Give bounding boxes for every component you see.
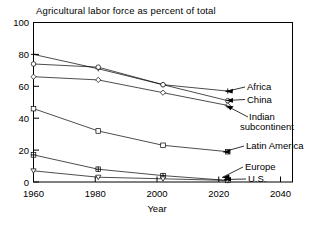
y-tick-label-4: 80	[18, 49, 29, 60]
data-point	[31, 52, 36, 57]
data-point	[96, 65, 101, 70]
y-tick-label-3: 60	[18, 81, 29, 92]
series-europe	[31, 152, 230, 183]
agricultural-labor-force-line-chart: Agricultural labor force as percent of t…	[0, 0, 322, 229]
x-tick-group-4: 2040	[270, 177, 291, 200]
x-tick-label-4: 2040	[270, 188, 291, 199]
x-tick-group-2: 2000	[146, 177, 167, 200]
series-label-subcontinent: subcontinent	[240, 121, 294, 132]
chart-container: Agricultural labor force as percent of t…	[0, 0, 322, 229]
data-point	[96, 77, 101, 82]
data-point	[161, 82, 166, 87]
y-tick-group-3: 60	[18, 81, 39, 92]
x-tick-label-2: 2000	[146, 188, 167, 199]
y-tick-group-2: 40	[18, 113, 39, 124]
series-label-africa: Africa	[247, 81, 272, 92]
data-point	[31, 62, 36, 67]
series-label-latin-america: Latin America	[246, 140, 304, 151]
series-indian-subcontinent	[31, 74, 230, 108]
y-tick-label-2: 40	[18, 113, 29, 124]
data-point	[161, 143, 166, 148]
data-point	[31, 152, 36, 157]
x-tick-group-1: 1980	[85, 177, 106, 200]
x-axis-title: Year	[147, 203, 166, 214]
series-label-europe: Europe	[245, 161, 276, 172]
y-tick-group-5: 100	[13, 17, 39, 28]
data-point	[31, 106, 36, 111]
series-china	[31, 62, 230, 103]
x-tick-label-0: 1960	[23, 188, 44, 199]
y-tick-label-5: 100	[13, 17, 29, 28]
data-point	[160, 90, 165, 95]
series-layer	[31, 52, 230, 183]
series-label-china: China	[247, 94, 273, 105]
series-u-s-	[31, 169, 230, 183]
y-tick-label-1: 20	[18, 145, 29, 156]
y-axis: 0 20 40 60 80 100	[13, 17, 39, 188]
y-tick-group-0: 0	[24, 177, 39, 188]
x-tick-label-1: 1980	[85, 188, 106, 199]
x-tick-label-3: 2020	[208, 188, 229, 199]
annotation-labels: Africa China Indian subcontinent Latin A…	[240, 81, 304, 184]
data-point	[96, 167, 101, 172]
data-point	[96, 129, 101, 134]
series-africa	[31, 52, 230, 94]
series-latin-america	[31, 106, 230, 154]
series-label-us: U.S.	[248, 173, 266, 184]
y-tick-label-0: 0	[24, 177, 29, 188]
data-point	[31, 74, 36, 79]
chart-title: Agricultural labor force as percent of t…	[36, 5, 216, 16]
